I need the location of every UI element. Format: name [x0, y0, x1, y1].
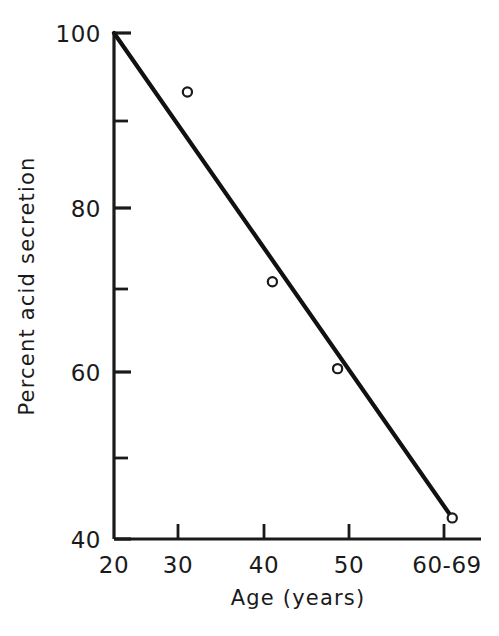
- acid-secretion-scatter-chart: 100 80 60 40 20 30 40 50 60-69 Age (year…: [0, 0, 499, 636]
- y-tick-label-40: 40: [71, 527, 101, 553]
- x-tick-label-40: 40: [249, 552, 279, 578]
- y-tick-label-100: 100: [56, 21, 101, 47]
- data-point-marker: [448, 513, 457, 522]
- data-point-marker: [268, 277, 277, 286]
- chart-figure: 100 80 60 40 20 30 40 50 60-69 Age (year…: [0, 0, 499, 636]
- x-tick-label-20: 20: [99, 552, 129, 578]
- x-tick-label-60-69: 60-69: [412, 552, 481, 578]
- data-point-marker: [183, 87, 192, 96]
- x-tick-label-30: 30: [163, 552, 193, 578]
- y-axis-title: Percent acid secretion: [15, 156, 39, 415]
- x-tick-label-50: 50: [334, 552, 364, 578]
- x-axis-title: Age (years): [231, 586, 366, 610]
- data-point-marker: [333, 364, 342, 373]
- y-tick-label-60: 60: [71, 360, 101, 386]
- y-tick-label-80: 80: [71, 196, 101, 222]
